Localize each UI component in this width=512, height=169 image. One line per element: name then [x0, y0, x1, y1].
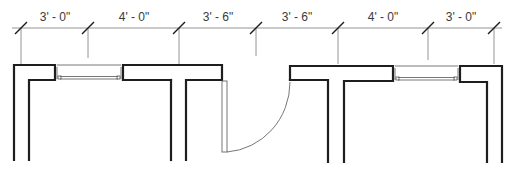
dimension-string: 3' - 0" 4' - 0" 3' - 6" 3' - 6" 4' - 0" …: [12, 10, 502, 64]
dimension-label: 3' - 0": [40, 10, 71, 24]
window: [395, 66, 458, 80]
dimension-label: 3' - 0": [446, 10, 477, 24]
wall-segment: [290, 80, 328, 162]
dimension-label: 3' - 6": [282, 10, 313, 24]
right-wall: [290, 66, 502, 162]
dimension-label: 3' - 6": [203, 10, 234, 24]
wall-segment: [14, 65, 55, 160]
dimension-label: 4' - 0": [119, 10, 150, 24]
floor-plan-drawing: 3' - 0" 4' - 0" 3' - 6" 3' - 6" 4' - 0" …: [0, 0, 512, 169]
door-leaf: [222, 81, 227, 152]
door: [222, 81, 290, 152]
door-swing-arc: [227, 82, 290, 152]
wall-segment: [460, 82, 487, 162]
window: [57, 65, 121, 79]
dimension-label: 4' - 0": [368, 10, 399, 24]
left-wall: [14, 65, 222, 160]
wall-segment: [460, 66, 502, 162]
